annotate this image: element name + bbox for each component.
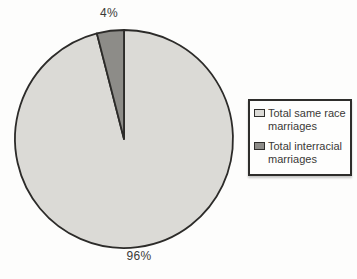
legend-label-interracial: Total interracial marriages: [268, 140, 348, 166]
slice-label-interracial: 4%: [95, 6, 123, 20]
legend-swatch-interracial-icon: [254, 142, 265, 150]
pie-chart-figure: 4% 96% Total same race marriages Total i…: [0, 0, 357, 279]
legend-item-same-race: Total same race marriages: [254, 107, 348, 133]
pie-slices: [15, 30, 233, 248]
legend-label-same-race: Total same race marriages: [268, 107, 348, 133]
legend-swatch-same-race-icon: [254, 109, 265, 117]
legend-item-interracial: Total interracial marriages: [254, 140, 348, 166]
legend: Total same race marriages Total interrac…: [248, 99, 352, 176]
slice-label-same-race: 96%: [118, 249, 160, 263]
